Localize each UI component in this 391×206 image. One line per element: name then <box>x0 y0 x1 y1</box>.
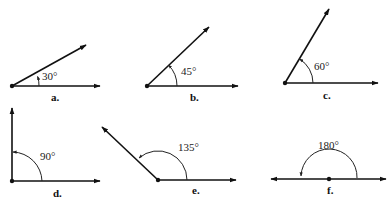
angle-diagram: 30° a. 45° b. 60° c. 90° d. 135° e. <box>0 0 391 206</box>
vertex-dot <box>145 84 149 88</box>
angle-letter: f. <box>327 184 334 196</box>
vertex-dot <box>10 84 14 88</box>
vertex-dot <box>283 81 287 85</box>
terminal-ray <box>147 27 209 86</box>
degree-label: 135° <box>178 141 199 153</box>
angle-arc <box>13 152 42 181</box>
angle-letter: b. <box>190 91 199 103</box>
angle-arc <box>38 77 39 87</box>
angle-arc <box>301 149 357 178</box>
terminal-ray <box>102 127 158 180</box>
vertex-dot <box>156 178 160 182</box>
angle-d: 90° d. <box>10 108 100 199</box>
angle-letter: d. <box>53 187 62 199</box>
angle-letter: e. <box>192 184 200 196</box>
degree-label: 30° <box>42 70 57 82</box>
degree-label: 180° <box>318 139 339 151</box>
angle-arc <box>139 151 187 180</box>
angle-e: 135° e. <box>102 127 236 196</box>
angle-c: 60° c. <box>283 9 378 101</box>
vertex-dot <box>327 177 331 181</box>
angle-a: 30° a. <box>10 45 100 103</box>
angle-f: 180° f. <box>271 139 386 196</box>
angle-letter: c. <box>323 89 331 101</box>
degree-label: 45° <box>181 65 196 77</box>
degree-label: 60° <box>314 60 329 72</box>
angle-letter: a. <box>51 91 60 103</box>
angle-arc <box>300 59 314 83</box>
vertex-dot <box>10 179 14 183</box>
degree-label: 90° <box>40 150 55 162</box>
angle-b: 45° b. <box>145 27 238 103</box>
angle-arc <box>169 65 178 86</box>
